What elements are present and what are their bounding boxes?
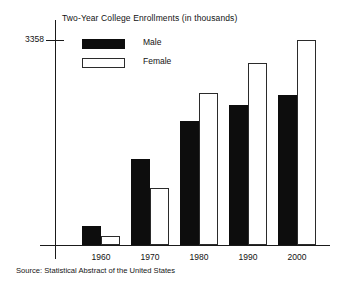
bar-male-1970 — [131, 159, 150, 245]
bar-male-1960 — [82, 226, 101, 245]
bar-group-container — [0, 0, 358, 285]
bar-male-2000 — [278, 95, 297, 245]
bar-female-1960 — [101, 236, 120, 245]
chart-figure: Two-Year College Enrollments (in thousan… — [0, 0, 358, 285]
bar-female-1970 — [150, 188, 169, 245]
legend-swatch-female-icon — [82, 58, 125, 68]
legend-swatch-male-icon — [82, 39, 125, 49]
bar-male-1980 — [180, 121, 199, 245]
legend-label-female: Female — [143, 56, 171, 66]
bar-male-1990 — [229, 105, 248, 245]
bar-female-1980 — [199, 93, 218, 245]
legend-label-male: Male — [143, 37, 161, 47]
bar-female-1990 — [248, 63, 267, 245]
bar-female-2000 — [297, 40, 316, 245]
source-note: Source: Statistical Abstract of the Unit… — [16, 266, 175, 275]
